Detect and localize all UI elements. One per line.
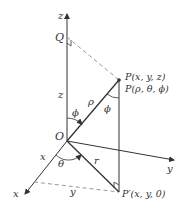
- right-angle-mark-q: [67, 40, 71, 46]
- r-label: r: [94, 155, 100, 166]
- dashed-q-to-p: [67, 37, 119, 80]
- phi-arc-p: [107, 94, 119, 98]
- x-axis-label: x: [13, 188, 19, 199]
- p-cartesian-label: P(x, y, z): [124, 71, 166, 82]
- p-spherical-label: P(ρ, θ, ϕ): [124, 83, 169, 94]
- rho-label: ρ: [87, 96, 94, 107]
- phi-p-label: ϕ: [104, 103, 111, 114]
- point-p-dot: [117, 78, 121, 82]
- x-length-label: x: [40, 151, 46, 162]
- phi-origin-label: ϕ: [72, 107, 79, 118]
- p-prime-label: P′(x, y, 0): [121, 188, 166, 199]
- spherical-coordinates-diagram: z Q P(x, y, z) P(ρ, θ, ϕ) z ρ ϕ ϕ O x θ …: [0, 0, 185, 214]
- z-height-label: z: [57, 89, 64, 100]
- y-axis-label: y: [166, 163, 173, 174]
- origin-label: O: [55, 130, 64, 143]
- phi-arc-origin: [67, 118, 82, 124]
- theta-label: θ: [58, 158, 64, 169]
- q-label: Q: [55, 31, 64, 44]
- dashed-x-to-pprime: [34, 182, 119, 192]
- y-length-label: y: [69, 186, 76, 197]
- z-axis-label: z: [57, 10, 64, 21]
